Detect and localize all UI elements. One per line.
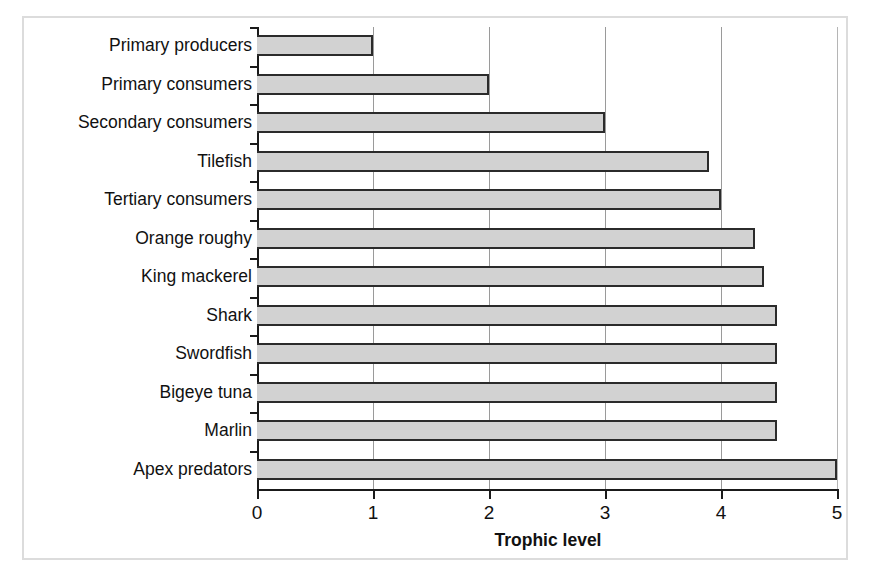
x-axis-tick-label: 4 bbox=[701, 502, 741, 524]
bar-tilefish bbox=[257, 151, 709, 172]
y-axis-tick bbox=[250, 66, 257, 68]
bar-row bbox=[257, 220, 837, 259]
category-label: Primary consumers bbox=[27, 76, 252, 94]
y-axis-tick bbox=[250, 220, 257, 222]
x-axis-tick bbox=[721, 491, 723, 499]
bar-secondary-consumers bbox=[257, 112, 605, 133]
bar-row bbox=[257, 335, 837, 374]
x-axis-tick-label: 0 bbox=[237, 502, 277, 524]
bar-shark bbox=[257, 305, 777, 326]
bar-row bbox=[257, 66, 837, 105]
x-axis-tick-label: 3 bbox=[585, 502, 625, 524]
y-axis-tick bbox=[250, 374, 257, 376]
bar-row bbox=[257, 181, 837, 220]
bar-row bbox=[257, 258, 837, 297]
y-axis-tick bbox=[250, 451, 257, 453]
bar-marlin bbox=[257, 420, 777, 441]
category-label: King mackerel bbox=[27, 268, 252, 286]
category-label: Orange roughy bbox=[27, 230, 252, 248]
x-axis-tick-label: 2 bbox=[469, 502, 509, 524]
bar-tertiary-consumers bbox=[257, 189, 721, 210]
category-label: Bigeye tuna bbox=[27, 384, 252, 402]
x-axis-tick bbox=[605, 491, 607, 499]
x-axis-tick bbox=[837, 491, 839, 499]
x-axis-tick bbox=[257, 491, 259, 499]
bar-row bbox=[257, 374, 837, 413]
plot-region bbox=[257, 27, 837, 489]
category-axis-labels: Primary producersPrimary consumersSecond… bbox=[24, 27, 252, 489]
figure-frame: Primary producersPrimary consumersSecond… bbox=[22, 16, 848, 560]
y-axis-tick bbox=[250, 181, 257, 183]
y-axis-tick bbox=[250, 412, 257, 414]
bar-row bbox=[257, 297, 837, 336]
x-axis-tick bbox=[489, 491, 491, 499]
bar-row bbox=[257, 451, 837, 490]
gridline-5 bbox=[837, 27, 838, 489]
bar-bigeye-tuna bbox=[257, 382, 777, 403]
bar-row bbox=[257, 412, 837, 451]
category-label: Shark bbox=[27, 307, 252, 325]
bar-apex-predators bbox=[257, 459, 837, 480]
bar-row bbox=[257, 27, 837, 66]
x-axis-line bbox=[257, 489, 839, 491]
x-axis-tick bbox=[373, 491, 375, 499]
bar-king-mackerel bbox=[257, 266, 764, 287]
category-label: Tertiary consumers bbox=[27, 191, 252, 209]
category-label: Apex predators bbox=[27, 461, 252, 479]
category-label: Tilefish bbox=[27, 153, 252, 171]
bar-swordfish bbox=[257, 343, 777, 364]
trophic-level-bar-chart: Primary producersPrimary consumersSecond… bbox=[24, 18, 850, 562]
y-axis-tick bbox=[250, 335, 257, 337]
y-axis-tick bbox=[250, 297, 257, 299]
bar-primary-consumers bbox=[257, 74, 489, 95]
x-axis-tick-label: 5 bbox=[817, 502, 857, 524]
y-axis-tick bbox=[250, 143, 257, 145]
x-axis-title: Trophic level bbox=[257, 530, 839, 551]
category-label: Marlin bbox=[27, 422, 252, 440]
category-label: Swordfish bbox=[27, 345, 252, 363]
y-axis-tick bbox=[250, 27, 257, 29]
bar-primary-producers bbox=[257, 35, 373, 56]
y-axis-tick bbox=[250, 258, 257, 260]
bar-row bbox=[257, 104, 837, 143]
bar-row bbox=[257, 143, 837, 182]
y-axis-tick bbox=[250, 104, 257, 106]
bar-orange-roughy bbox=[257, 228, 755, 249]
category-label: Primary producers bbox=[27, 37, 252, 55]
category-label: Secondary consumers bbox=[27, 114, 252, 132]
x-axis-tick-label: 1 bbox=[353, 502, 393, 524]
